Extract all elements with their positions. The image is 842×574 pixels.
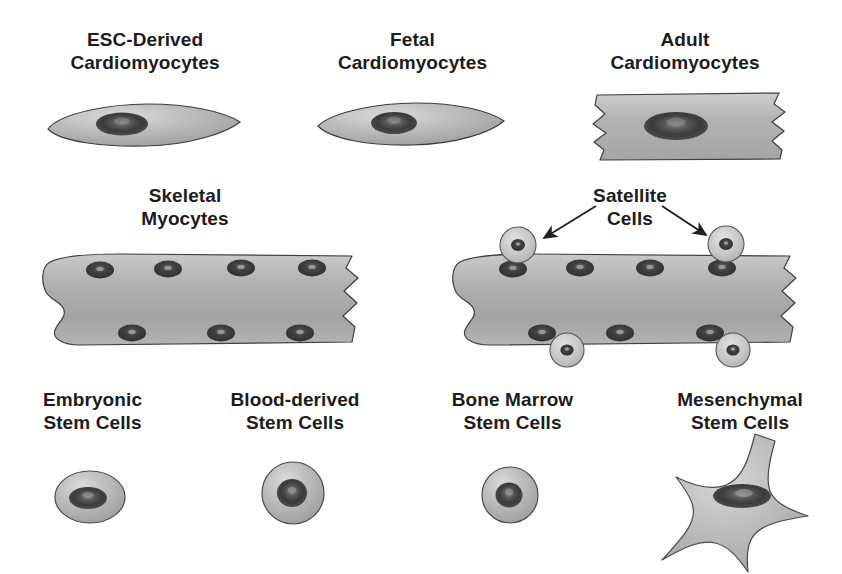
- skeletal-myocyte-fiber-right: [453, 206, 796, 367]
- label-bone-marrow-stem-cells: Bone Marrow Stem Cells: [425, 388, 600, 434]
- label-adult-cardiomyocytes: Adult Cardiomyocytes: [590, 28, 780, 74]
- label-satellite-cells: Satellite Cells: [560, 184, 700, 230]
- adult-cardiomyocyte-cell: [593, 93, 785, 160]
- label-embryonic-stem-cells: Embryonic Stem Cells: [10, 388, 175, 434]
- label-blood-derived-stem-cells: Blood-derived Stem Cells: [205, 388, 385, 434]
- fetal-nucleus-highlight: [387, 117, 401, 124]
- mesenchymal-stem-cell: [662, 434, 808, 572]
- esc-derived-nucleus-highlight: [114, 117, 130, 124]
- esc-derived-cardiomyocyte-cell: [48, 104, 240, 146]
- cell-types-diagram: ESC-Derived Cardiomyocytes Fetal Cardiom…: [0, 0, 842, 574]
- diagram-canvas: [0, 0, 842, 574]
- adult-nucleus-highlight: [666, 118, 686, 127]
- blood-derived-stem-cell: [262, 462, 324, 524]
- embryonic-stem-cell: [55, 471, 125, 523]
- label-esc-derived-cardiomyocytes: ESC-Derived Cardiomyocytes: [50, 28, 240, 74]
- label-mesenchymal-stem-cells: Mesenchymal Stem Cells: [650, 388, 830, 434]
- fetal-cardiomyocyte-cell: [318, 103, 504, 145]
- skeletal-myocyte-fiber-left: [43, 254, 358, 345]
- blood-derived-nucleus-highlight: [287, 486, 296, 493]
- label-fetal-cardiomyocytes: Fetal Cardiomyocytes: [320, 28, 505, 74]
- satellite-cell-bottom-left: [550, 333, 584, 367]
- satellite-cell-top-left: [500, 227, 536, 263]
- embryonic-nucleus-highlight: [82, 492, 94, 498]
- satellite-cell-bottom-right: [716, 333, 750, 367]
- bone-marrow-nucleus-highlight: [505, 489, 513, 496]
- label-skeletal-myocytes: Skeletal Myocytes: [95, 184, 275, 230]
- satellite-cell-top-right: [708, 226, 744, 262]
- bone-marrow-stem-cell: [482, 467, 538, 523]
- mesenchymal-nucleus-highlight: [735, 489, 753, 497]
